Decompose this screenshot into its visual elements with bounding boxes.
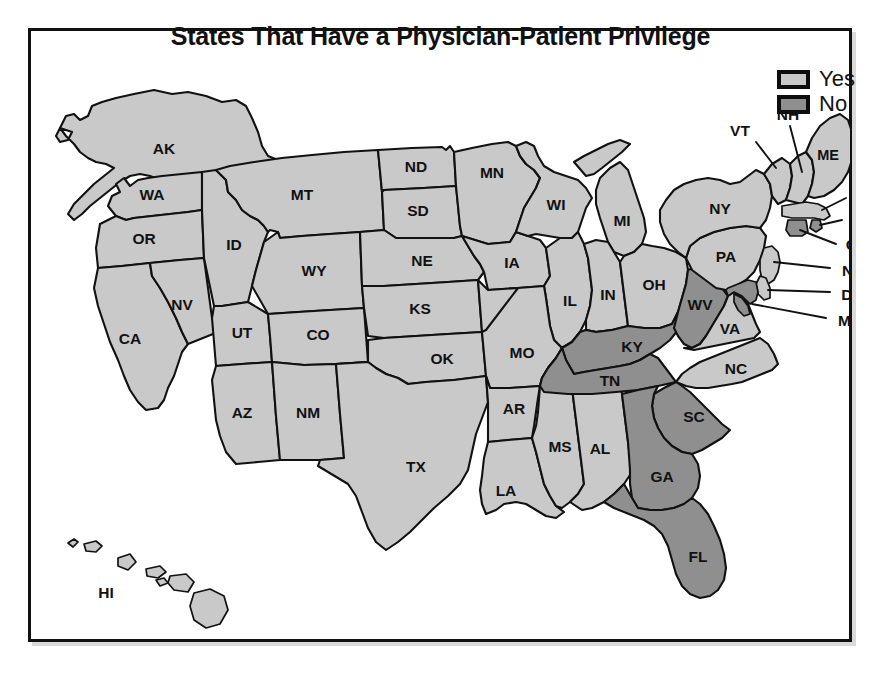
state-label-MN: MN: [480, 164, 504, 181]
state-TX[interactable]: [318, 362, 488, 550]
state-label-OH: OH: [642, 276, 665, 293]
state-label-SD: SD: [407, 202, 429, 219]
state-label-CO: CO: [306, 326, 329, 343]
state-label-PA: PA: [716, 248, 736, 265]
state-label-TN: TN: [600, 372, 621, 389]
state-label-ID: ID: [226, 236, 242, 253]
state-label-NY: NY: [709, 200, 731, 217]
state-label-HI: HI: [98, 584, 114, 601]
state-label-MI: MI: [613, 212, 630, 229]
page-title: States That Have a Physician-Patient Pri…: [0, 22, 881, 51]
state-label-IN: IN: [600, 286, 616, 303]
state-label-UT: UT: [232, 324, 253, 341]
leader-MA: [822, 198, 846, 210]
state-label-AK: AK: [153, 140, 176, 157]
state-label-DE: DE: [841, 286, 850, 303]
state-label-WY: WY: [302, 262, 328, 279]
state-label-AZ: AZ: [232, 404, 253, 421]
state-label-OR: OR: [132, 230, 155, 247]
state-HI[interactable]: [68, 539, 228, 628]
state-label-AR: AR: [503, 400, 525, 417]
state-label-NV: NV: [171, 296, 193, 313]
state-label-CT: CT: [846, 236, 850, 253]
state-label-KY: KY: [621, 338, 643, 355]
state-label-GA: GA: [650, 468, 673, 485]
state-label-KS: KS: [409, 300, 431, 317]
state-label-TX: TX: [406, 458, 426, 475]
leader-DE: [768, 290, 830, 292]
state-CT[interactable]: [786, 220, 808, 236]
leader-NJ: [774, 262, 830, 268]
state-label-NH: NH: [777, 106, 799, 123]
map-figure: States That Have a Physician-Patient Pri…: [0, 0, 881, 675]
state-label-IL: IL: [563, 292, 577, 309]
state-label-ME: ME: [817, 147, 839, 163]
leader-CT: [800, 230, 836, 244]
state-label-WI: WI: [547, 196, 566, 213]
state-label-CA: CA: [119, 330, 141, 347]
state-label-MS: MS: [548, 438, 571, 455]
state-label-ND: ND: [405, 158, 427, 175]
state-label-FL: FL: [689, 548, 708, 565]
state-label-MO: MO: [510, 344, 535, 361]
leader-VT: [756, 142, 776, 168]
state-label-WA: WA: [140, 186, 165, 203]
state-label-NJ: NJ: [842, 262, 850, 279]
state-label-MD: MD: [838, 312, 850, 329]
state-label-LA: LA: [496, 482, 517, 499]
state-label-IA: IA: [504, 254, 520, 271]
state-label-WV: WV: [688, 296, 714, 313]
us-states-map: AK HI WA OR CA NV ID MT WY UT CO: [30, 80, 850, 640]
state-RI[interactable]: [810, 220, 822, 232]
state-label-MT: MT: [291, 186, 314, 203]
leader-MD: [752, 304, 826, 318]
state-label-SC: SC: [683, 408, 705, 425]
leader-RI: [820, 220, 842, 225]
state-MA[interactable]: [782, 202, 830, 220]
state-label-NM: NM: [296, 404, 320, 421]
state-label-OK: OK: [430, 350, 454, 367]
state-label-NE: NE: [411, 252, 433, 269]
state-label-NC: NC: [725, 360, 747, 377]
state-label-VA: VA: [720, 320, 740, 337]
state-label-VT: VT: [730, 122, 750, 139]
state-label-AL: AL: [590, 440, 611, 457]
